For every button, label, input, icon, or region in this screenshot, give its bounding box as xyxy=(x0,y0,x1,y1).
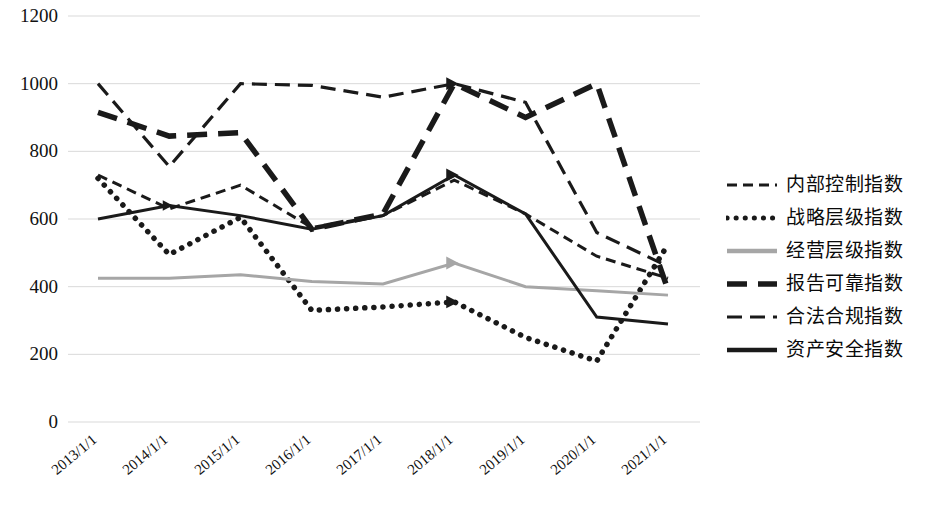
legend-item-4[interactable]: 合法合规指数 xyxy=(726,298,926,331)
series-line-4 xyxy=(98,84,668,267)
y-tick-label: 1200 xyxy=(0,6,58,25)
chart-legend: 内部控制指数战略层级指数经营层级指数报告可靠指数合法合规指数资产安全指数 xyxy=(726,166,926,364)
y-tick-label: 0 xyxy=(0,412,58,431)
legend-swatch-icon xyxy=(726,210,778,222)
legend-swatch-icon xyxy=(726,342,778,354)
legend-swatch-icon xyxy=(726,309,778,321)
marker-arrow xyxy=(446,257,458,270)
legend-swatch-icon xyxy=(726,243,778,255)
legend-swatch-icon xyxy=(726,276,778,288)
legend-item-1[interactable]: 战略层级指数 xyxy=(726,199,926,232)
chart-container: 120010008006004002000 2013/1/12014/1/120… xyxy=(0,0,926,523)
legend-label: 内部控制指数 xyxy=(786,169,903,196)
y-tick-label: 200 xyxy=(0,344,58,363)
series-line-0 xyxy=(98,175,668,278)
legend-item-3[interactable]: 报告可靠指数 xyxy=(726,265,926,298)
y-tick-label: 600 xyxy=(0,209,58,228)
legend-swatch-icon xyxy=(726,177,778,189)
y-tick-label: 800 xyxy=(0,141,58,160)
legend-label: 合法合规指数 xyxy=(786,301,903,328)
y-tick-label: 400 xyxy=(0,277,58,296)
gridlines xyxy=(68,16,700,422)
data-series-group xyxy=(98,84,668,361)
legend-label: 资产安全指数 xyxy=(786,334,903,361)
legend-label: 经营层级指数 xyxy=(786,235,903,262)
legend-item-5[interactable]: 资产安全指数 xyxy=(726,331,926,364)
y-tick-label: 1000 xyxy=(0,74,58,93)
legend-item-0[interactable]: 内部控制指数 xyxy=(726,166,926,199)
legend-label: 报告可靠指数 xyxy=(786,268,903,295)
legend-label: 战略层级指数 xyxy=(786,202,903,229)
marker-arrow xyxy=(446,295,458,308)
series-line-3 xyxy=(98,84,668,290)
legend-item-2[interactable]: 经营层级指数 xyxy=(726,232,926,265)
series-line-2 xyxy=(98,263,668,295)
